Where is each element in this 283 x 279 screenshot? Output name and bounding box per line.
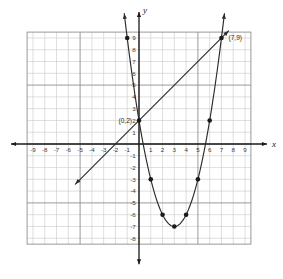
marked-point [184, 212, 189, 217]
point-annotation-label: (7,9) [228, 34, 242, 42]
y-axis-label: y [142, 5, 147, 15]
y-tick-label: 9 [132, 34, 136, 41]
x-tick-label: 2 [161, 146, 165, 153]
y-tick-label: 1 [132, 129, 136, 136]
x-tick-label: 4 [184, 146, 188, 153]
marked-point [219, 36, 224, 41]
x-tick-label: 5 [196, 146, 200, 153]
x-tick-label: -4 [89, 146, 95, 153]
x-tick-label: 8 [232, 146, 236, 153]
marked-point [137, 118, 142, 123]
x-tick-label: 7 [220, 146, 224, 153]
marked-point [160, 212, 165, 217]
y-tick-label: -8 [130, 235, 136, 242]
graph-figure: -9-8-7-6-5-4-3-2-1123456789 987654321-1-… [0, 0, 283, 279]
y-tick-label: -2 [130, 164, 136, 171]
x-axis-label: x [271, 139, 276, 149]
y-tick-label: 8 [132, 46, 136, 53]
y-tick-label: 7 [132, 58, 136, 65]
x-tick-label: 6 [208, 146, 212, 153]
point-annotation-label: (0,2) [118, 117, 132, 125]
marked-point [148, 177, 153, 182]
x-tick-label: 9 [243, 146, 247, 153]
marked-point [125, 36, 130, 41]
x-tick-label: -8 [42, 146, 48, 153]
x-tick-label: -7 [54, 146, 60, 153]
y-tick-label: -3 [130, 176, 136, 183]
marked-point [207, 118, 212, 123]
y-tick-label: 6 [132, 70, 136, 77]
x-tick-label: -6 [66, 146, 72, 153]
y-tick-label: 2 [132, 117, 136, 124]
x-tick-label: -3 [101, 146, 107, 153]
marked-point [172, 224, 177, 229]
marked-point [196, 177, 201, 182]
y-tick-label: -4 [130, 187, 136, 194]
figure-background [0, 0, 283, 279]
coordinate-plane-svg: -9-8-7-6-5-4-3-2-1123456789 987654321-1-… [0, 0, 283, 279]
y-tick-label: -6 [130, 211, 136, 218]
y-tick-label: -5 [130, 199, 136, 206]
x-tick-label: 1 [149, 146, 153, 153]
y-tick-label: -7 [130, 223, 136, 230]
y-tick-label: -1 [130, 152, 136, 159]
y-tick-label: 3 [132, 105, 136, 112]
x-tick-label: 3 [173, 146, 177, 153]
x-tick-label: -9 [30, 146, 36, 153]
x-tick-label: -5 [77, 146, 83, 153]
x-tick-label: -2 [113, 146, 119, 153]
